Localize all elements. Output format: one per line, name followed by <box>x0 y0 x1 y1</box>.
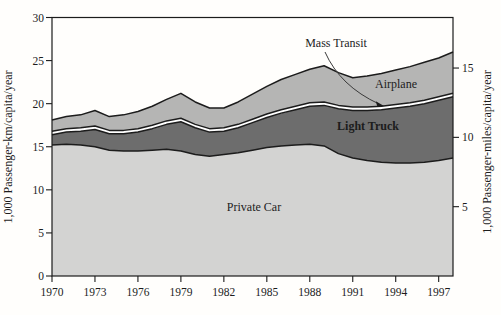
x-tick-label: 1973 <box>83 286 106 298</box>
label-airplane: Airplane <box>375 77 417 91</box>
label-private-car: Private Car <box>227 200 281 214</box>
figure: 0510152025305101519701973197619791982198… <box>0 0 501 315</box>
label-mass-transit: Mass Transit <box>305 36 367 50</box>
y-left-tick-label: 25 <box>33 55 45 67</box>
x-tick-label: 1988 <box>298 286 321 298</box>
y-left-tick-label: 20 <box>33 98 45 110</box>
y-left-tick-label: 0 <box>38 270 44 282</box>
y-right-tick-label: 15 <box>462 62 474 74</box>
x-tick-label: 1991 <box>341 286 364 298</box>
y-right-tick-label: 5 <box>462 201 468 213</box>
x-tick-label: 1976 <box>126 286 149 298</box>
x-tick-label: 1970 <box>41 286 64 298</box>
x-tick-label: 1979 <box>169 286 192 298</box>
x-tick-label: 1997 <box>427 286 450 298</box>
y-left-tick-label: 15 <box>33 141 45 153</box>
y-right-axis-title: 1,000 Passenger-miles/capita/year <box>480 70 494 234</box>
y-left-tick-label: 10 <box>33 184 45 196</box>
y-right-tick-label: 10 <box>462 131 474 143</box>
x-tick-label: 1994 <box>384 286 407 298</box>
y-left-tick-label: 30 <box>33 12 45 24</box>
stacked-area-chart: 0510152025305101519701973197619791982198… <box>0 0 501 315</box>
x-tick-label: 1985 <box>255 286 278 298</box>
x-tick-label: 1982 <box>212 286 235 298</box>
y-left-axis-title: 1,000 Passenger-km/capita/year <box>1 70 15 223</box>
label-light-truck: Light Truck <box>337 119 399 133</box>
y-left-tick-label: 5 <box>38 227 44 239</box>
